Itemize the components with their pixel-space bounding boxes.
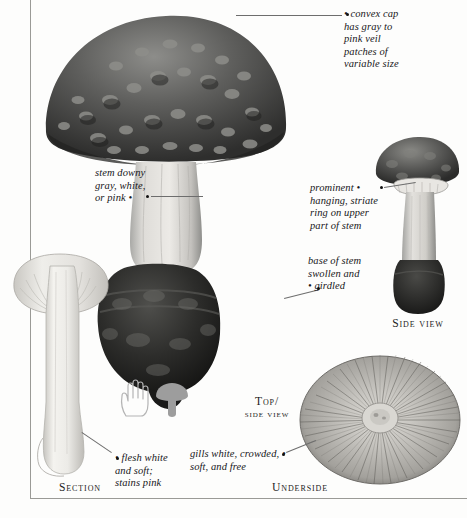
annotation-line: prominent •	[310, 182, 396, 195]
view-label-section-text: Section	[59, 481, 101, 494]
annotation-line: part of stem	[310, 220, 396, 233]
annotation-line: gills white, crowded, •	[190, 448, 288, 461]
horizontal-rule	[30, 498, 467, 499]
view-label-top-side-line2: side view	[232, 408, 302, 420]
view-label-underside: Underside	[254, 482, 346, 494]
annotation-line: or pink •	[95, 192, 165, 205]
annotation-line: pink veil	[344, 33, 462, 46]
annotation-line: • convex cap	[344, 8, 462, 21]
annotation-line: and soft;	[115, 465, 187, 478]
annotation-stem-downy: stem downy gray, white, or pink •	[95, 167, 165, 205]
specimen-underside	[296, 352, 464, 492]
view-label-underside-text: Underside	[272, 481, 328, 494]
annotation-line: stem downy	[95, 167, 165, 180]
annotation-bullet-gills	[282, 453, 285, 456]
annotation-line: soft, and free	[190, 461, 288, 474]
leader-line-cap	[236, 15, 342, 16]
annotation-bullet-base	[317, 287, 320, 290]
view-label-top-side: Top/ side view	[232, 396, 302, 419]
annotation-prominent-ring: prominent • hanging, striate ring on upp…	[310, 182, 396, 232]
annotation-line: swollen and	[308, 268, 394, 281]
hand-icon	[122, 380, 148, 416]
annotation-line: variable size	[344, 58, 462, 71]
size-comparison-icon	[118, 378, 190, 418]
annotation-convex-cap: • convex cap has gray to pink veil patch…	[344, 8, 462, 71]
annotation-line: base of stem	[308, 255, 394, 268]
annotation-line: gray, white,	[95, 180, 165, 193]
annotation-line: ring on upper	[310, 207, 396, 220]
annotation-bullet-stem-downy	[146, 195, 149, 198]
annotation-line: patches of	[344, 46, 462, 59]
annotation-bullet-flesh	[116, 457, 119, 460]
annotation-stem-base: base of stem swollen and • girdled	[308, 255, 394, 293]
view-label-top-side-line1: Top/	[232, 396, 302, 408]
annotation-flesh: • flesh white and soft; stains pink	[115, 452, 187, 490]
annotation-bullet-ring	[380, 186, 383, 189]
mushroom-silhouette-icon	[156, 383, 188, 417]
annotation-line: has gray to	[344, 21, 462, 34]
annotation-line: • girdled	[308, 280, 394, 293]
view-label-section: Section	[38, 482, 122, 494]
annotation-line: stains pink	[115, 477, 187, 490]
annotation-line: hanging, striate	[310, 195, 396, 208]
view-label-side: Side view	[376, 318, 460, 330]
annotation-line: • flesh white	[115, 452, 187, 465]
view-label-side-text: Side view	[392, 317, 444, 330]
annotation-gills: gills white, crowded, • soft, and free	[190, 448, 288, 473]
guide-plate: • convex cap has gray to pink veil patch…	[0, 0, 467, 518]
annotation-bullet-cap	[346, 13, 349, 16]
